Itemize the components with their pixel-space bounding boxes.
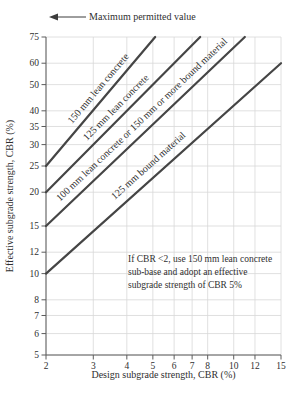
series-label: 150 mm lean concrete xyxy=(65,50,131,125)
y-tick-label: 10 xyxy=(30,269,40,279)
cbr-note-line-1: If CBR <2, use 150 mm lean concrete xyxy=(128,253,272,266)
y-tick-label: 75 xyxy=(30,32,40,42)
chart-canvas: 5678101215202530354050607523456781012151… xyxy=(0,0,300,401)
y-tick-label: 35 xyxy=(30,122,40,132)
cbr-note-line-3: subgrade strength of CBR 5% xyxy=(128,279,272,292)
y-tick-label: 25 xyxy=(30,161,40,171)
cbr-note-line-2: sub-base and adopt an effective xyxy=(128,266,272,279)
y-axis-title: Effective subgrade strength, CBR (%) xyxy=(4,120,15,272)
cbr-note: If CBR <2, use 150 mm lean concrete sub-… xyxy=(128,253,272,292)
left-arrow-icon xyxy=(49,14,58,21)
y-tick-label: 6 xyxy=(34,329,39,339)
y-tick-label: 12 xyxy=(30,247,40,257)
y-tick-label: 60 xyxy=(30,58,40,68)
y-tick-label: 15 xyxy=(30,221,40,231)
series-line xyxy=(46,37,155,166)
y-tick-label: 50 xyxy=(30,80,40,90)
subgrade-design-chart: 5678101215202530354050607523456781012151… xyxy=(0,0,300,401)
y-tick-label: 40 xyxy=(30,106,40,116)
y-tick-label: 30 xyxy=(30,140,40,150)
y-tick-label: 20 xyxy=(30,187,40,197)
x-axis-title: Design subgrade strength, CBR (%) xyxy=(46,369,281,380)
y-tick-label: 8 xyxy=(34,295,39,305)
max-permitted-label: Maximum permitted value xyxy=(89,11,196,23)
y-tick-label: 7 xyxy=(34,311,39,321)
y-tick-label: 5 xyxy=(34,350,39,360)
